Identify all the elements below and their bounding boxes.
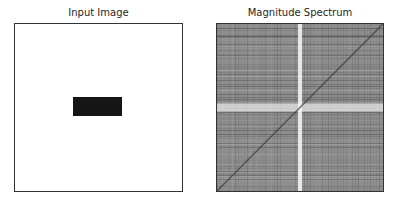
black-rectangle (73, 97, 121, 115)
magnitude-spectrum-title: Magnitude Spectrum (216, 7, 384, 18)
magnitude-spectrum-axes (216, 23, 384, 192)
input-image-title: Input Image (14, 7, 183, 18)
input-image-axes (14, 23, 183, 192)
spectrum-image (217, 24, 383, 191)
